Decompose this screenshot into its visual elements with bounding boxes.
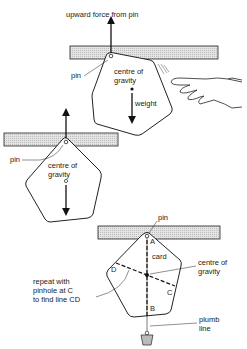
point-b-label: B [150,305,155,314]
pin-2 [64,140,68,144]
centre-of-gravity-2 [64,179,67,182]
repeat-label-line3: to find line CD [33,296,80,305]
plumb-ring [145,331,149,335]
point-a-label: A [150,238,155,247]
support-beam-1 [70,46,218,59]
plumb-leader [150,323,197,326]
hand-illustration [171,78,242,108]
plumb-label-line2: line [199,325,211,334]
card-3 [107,233,182,318]
weight-label: weight [135,100,157,109]
point-c-label: C [167,289,172,298]
pin-3 [145,234,149,238]
card-2 [26,138,102,222]
pin-label-1: pin [71,72,81,81]
pin-label-3: pin [158,214,168,223]
cog-label-1-line2: gravity [114,77,136,86]
upward-force-label: upward force from pin [66,11,139,20]
pin-1 [109,54,113,58]
panel-1-pivoting-card [70,20,242,135]
centre-of-gravity-1 [130,87,133,90]
cog-label-3-line2: gravity [198,268,220,277]
card-label: card [152,253,167,262]
pin-label-2: pin [10,156,20,165]
centre-of-gravity-3 [145,273,149,277]
plumb-bob [141,335,153,345]
support-beam-3 [98,226,220,239]
motion-lines [158,64,169,74]
cog-label-2-line2: gravity [48,171,70,180]
point-d-label: D [111,266,116,275]
